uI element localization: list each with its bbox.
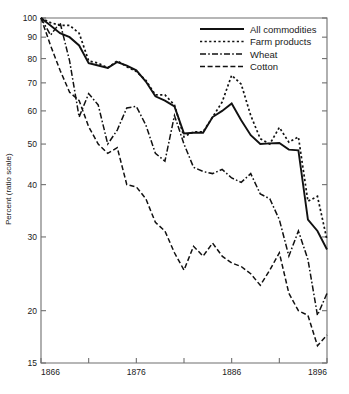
- x-tick-label-1866: 1866: [41, 367, 60, 377]
- y-tick-label-15: 15: [28, 358, 38, 368]
- x-tick-label-1876: 1876: [127, 367, 146, 377]
- chart-axes: [41, 18, 327, 363]
- series-line-cotton: [41, 18, 327, 346]
- chart-figure: 152030405060708090100 1866187618861896 P…: [0, 0, 349, 394]
- legend-label-all-commodities: All commodities: [250, 24, 317, 35]
- y-tick-label-60: 60: [28, 106, 38, 116]
- y-axis-ticks-left: [41, 18, 46, 363]
- y-tick-label-50: 50: [28, 139, 38, 149]
- legend-label-farm-products: Farm products: [250, 36, 311, 47]
- chart-legend: All commoditiesFarm productsWheatCotton: [200, 24, 317, 73]
- y-axis-ticks-right: [322, 18, 327, 363]
- x-axis-ticks: [41, 358, 327, 363]
- y-tick-label-100: 100: [23, 13, 37, 23]
- x-tick-label-1896: 1896: [308, 367, 327, 377]
- x-tick-label-1886: 1886: [222, 367, 241, 377]
- series-line-farm-products: [41, 18, 327, 240]
- y-tick-label-30: 30: [28, 232, 38, 242]
- data-series-group: [41, 18, 327, 346]
- y-tick-label-40: 40: [28, 180, 38, 190]
- y-tick-label-70: 70: [28, 78, 38, 88]
- y-tick-label-90: 90: [28, 32, 38, 42]
- series-line-wheat: [41, 18, 327, 315]
- x-axis-tick-labels: 1866187618861896: [41, 367, 327, 377]
- y-axis-tick-labels: 152030405060708090100: [23, 13, 37, 368]
- plot-frame: [41, 18, 327, 363]
- y-axis-title: Percent (ratio scale): [4, 153, 13, 225]
- y-tick-label-20: 20: [28, 306, 38, 316]
- legend-label-wheat: Wheat: [250, 49, 278, 60]
- legend-label-cotton: Cotton: [250, 61, 278, 72]
- y-tick-label-80: 80: [28, 54, 38, 64]
- price-index-line-chart: 152030405060708090100 1866187618861896 P…: [0, 0, 349, 394]
